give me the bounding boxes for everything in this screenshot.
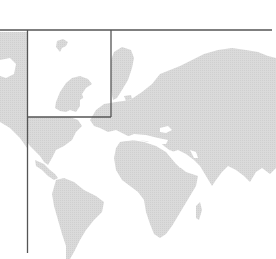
africa	[114, 140, 198, 238]
world-map	[0, 0, 276, 259]
madagascar	[196, 202, 202, 220]
south-america	[52, 178, 104, 259]
landmasses	[0, 32, 276, 259]
scandinavia	[55, 76, 92, 112]
map-canvas	[0, 0, 276, 259]
svalbard	[56, 39, 68, 52]
greenland	[111, 47, 134, 100]
